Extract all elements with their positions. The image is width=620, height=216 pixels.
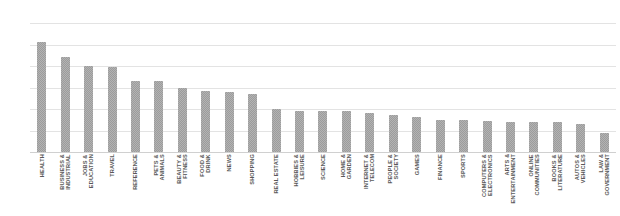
x-axis-label: REFERENCE xyxy=(132,154,138,190)
bar xyxy=(154,81,163,152)
bar xyxy=(201,91,210,152)
x-axis-label: FOOD & DRINK xyxy=(199,154,212,177)
x-axis-label: AUTOS & VEHICLES xyxy=(574,154,587,183)
x-axis-label: BUSINESS & INDUSTRIAL xyxy=(59,154,72,190)
bar xyxy=(412,117,421,152)
bar xyxy=(459,120,468,152)
x-label-column: TRAVEL xyxy=(100,154,123,216)
x-label-column: NEWS xyxy=(218,154,241,216)
bar xyxy=(318,111,327,152)
bar-column xyxy=(452,23,475,152)
bar-column xyxy=(241,23,264,152)
bar-column xyxy=(522,23,545,152)
bar xyxy=(483,121,492,152)
bar-column xyxy=(311,23,334,152)
bar xyxy=(61,57,70,152)
x-label-column: PETS & ANIMALS xyxy=(147,154,170,216)
x-axis-label: HEALTH xyxy=(39,154,45,177)
bar-column xyxy=(218,23,241,152)
bar-column xyxy=(171,23,194,152)
bar xyxy=(576,124,585,152)
x-label-column: FOOD & DRINK xyxy=(194,154,217,216)
x-label-column: HOBBIES & LEISURE xyxy=(288,154,311,216)
x-label-column: BEAUTY & FITNESS xyxy=(171,154,194,216)
gridline-0 xyxy=(30,152,616,153)
bar-column xyxy=(194,23,217,152)
bar-column xyxy=(77,23,100,152)
x-axis-label: INTERNET & TELECOM xyxy=(363,154,376,189)
bar-column xyxy=(382,23,405,152)
bar-column xyxy=(499,23,522,152)
x-axis-label: JOBS & EDUCATION xyxy=(82,154,95,188)
x-label-column: ARTS & ENTERTAINMENT xyxy=(499,154,522,216)
x-label-column: FINANCE xyxy=(428,154,451,216)
bar-column xyxy=(358,23,381,152)
bar xyxy=(248,94,257,152)
x-axis-label: SCIENCE xyxy=(320,154,326,180)
bar-column xyxy=(569,23,592,152)
bar-column xyxy=(100,23,123,152)
bar-column xyxy=(147,23,170,152)
x-label-column: LAW & GOVERNMENT xyxy=(593,154,616,216)
bar-column xyxy=(475,23,498,152)
bar-column xyxy=(30,23,53,152)
bar-column xyxy=(288,23,311,152)
x-axis-label: GAMES xyxy=(414,154,420,175)
x-axis-labels: HEALTHBUSINESS & INDUSTRIALJOBS & EDUCAT… xyxy=(30,154,616,216)
x-label-column: ONLINE COMMUNITIES xyxy=(522,154,545,216)
x-label-column: HEALTH xyxy=(30,154,53,216)
x-axis-label: HOBBIES & LEISURE xyxy=(293,154,306,186)
bar xyxy=(225,92,234,152)
x-axis-label: FINANCE xyxy=(437,154,443,180)
x-label-column: SCIENCE xyxy=(311,154,334,216)
bar-column xyxy=(124,23,147,152)
bar xyxy=(37,42,46,152)
bar-series xyxy=(30,23,616,152)
bar-column xyxy=(405,23,428,152)
x-label-column: AUTOS & VEHICLES xyxy=(569,154,592,216)
bar xyxy=(436,120,445,152)
x-axis-label: ARTS & ENTERTAINMENT xyxy=(504,154,517,203)
x-axis-label: HOME & GARDEN xyxy=(340,154,353,179)
bar xyxy=(108,67,117,152)
bar-column xyxy=(53,23,76,152)
plot-area: 050100150200250300 xyxy=(30,23,616,152)
bar xyxy=(178,88,187,153)
bar-column xyxy=(593,23,616,152)
bar-column xyxy=(428,23,451,152)
bar xyxy=(529,122,538,152)
bar xyxy=(342,111,351,152)
x-label-column: JOBS & EDUCATION xyxy=(77,154,100,216)
bar xyxy=(553,122,562,152)
bar xyxy=(506,122,515,152)
bar-column xyxy=(546,23,569,152)
x-label-column: SHOPPING xyxy=(241,154,264,216)
x-label-column: BUSINESS & INDUSTRIAL xyxy=(53,154,76,216)
bar xyxy=(389,115,398,152)
x-label-column: PEOPLE & SOCIETY xyxy=(382,154,405,216)
x-axis-label: PETS & ANIMALS xyxy=(153,154,166,181)
x-label-column: REAL ESTATE xyxy=(264,154,287,216)
x-axis-label: SHOPPING xyxy=(249,154,255,185)
x-label-column: COMPUTERS & ELECTRONICS xyxy=(475,154,498,216)
bar-chart: 050100150200250300 HEALTHBUSINESS & INDU… xyxy=(0,0,620,216)
x-axis-label: REAL ESTATE xyxy=(273,154,279,194)
x-axis-label: TRAVEL xyxy=(109,154,115,177)
x-label-column: SPORTS xyxy=(452,154,475,216)
x-axis-label: PEOPLE & SOCIETY xyxy=(387,154,400,184)
x-label-column: BOOKS & LITERATURE xyxy=(546,154,569,216)
x-axis-label: BEAUTY & FITNESS xyxy=(176,154,189,184)
x-label-column: REFERENCE xyxy=(124,154,147,216)
x-axis-label: NEWS xyxy=(226,154,232,171)
bar-column xyxy=(264,23,287,152)
x-axis-label: BOOKS & LITERATURE xyxy=(551,154,564,191)
bar xyxy=(600,133,609,152)
x-axis-label: LAW & GOVERNMENT xyxy=(598,154,611,196)
x-axis-label: COMPUTERS & ELECTRONICS xyxy=(481,154,494,197)
bar-column xyxy=(335,23,358,152)
x-label-column: GAMES xyxy=(405,154,428,216)
bar xyxy=(272,109,281,152)
bar xyxy=(295,111,304,152)
x-axis-label: ONLINE COMMUNITIES xyxy=(528,154,541,195)
x-axis-label: SPORTS xyxy=(460,154,466,178)
